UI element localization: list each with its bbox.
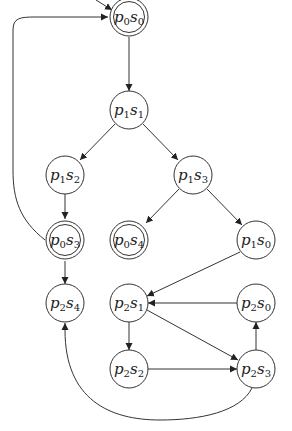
- nodes: p0s0 p1s1 p1s2 p1s3 p0s3 p0s4: [46, 0, 275, 388]
- edge-p1s3-p0s4: [146, 189, 179, 223]
- state-p2s3: p2s3: [237, 350, 275, 388]
- edge-p2s1-p2s3: [147, 310, 238, 360]
- state-p2s1: p2s1: [110, 284, 148, 322]
- edge-p1s1-p1s2: [80, 124, 115, 160]
- state-p1s0: p1s0: [237, 221, 275, 259]
- state-p1s2: p1s2: [46, 156, 84, 194]
- state-p2s4: p2s4: [46, 284, 84, 322]
- state-p1s3: p1s3: [174, 156, 212, 194]
- state-p2s0: p2s0: [237, 284, 275, 322]
- state-p0s4: p0s4: [110, 221, 148, 259]
- edge-p1s1-p1s3: [143, 124, 178, 160]
- edge-initial-p0s0: [96, 0, 112, 10]
- state-diagram: p0s0 p1s1 p1s2 p1s3 p0s3 p0s4: [0, 0, 292, 431]
- state-p1s1: p1s1: [110, 91, 148, 129]
- edge-p2s3-p2s4: [65, 323, 252, 420]
- edge-p1s3-p1s0: [207, 189, 242, 225]
- edge-p0s3-p0s0: [13, 17, 108, 240]
- edge-p1s0-p2s1: [147, 252, 240, 296]
- state-p0s0: p0s0: [110, 0, 148, 36]
- state-p2s2: p2s2: [110, 350, 148, 388]
- state-p0s3: p0s3: [46, 221, 84, 259]
